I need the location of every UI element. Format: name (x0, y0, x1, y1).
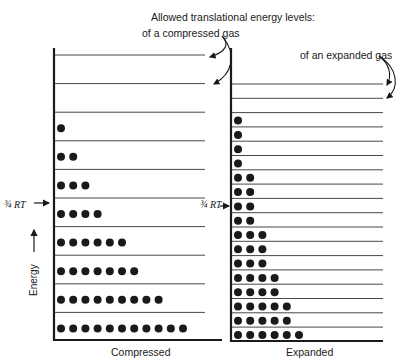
molecule-dot (94, 239, 102, 247)
curved-arrow-icon (210, 36, 226, 57)
molecule-dot (258, 274, 266, 282)
molecule-dot (69, 296, 77, 304)
molecule-dot (81, 181, 89, 189)
molecule-dot (246, 231, 254, 239)
molecule-dot (295, 331, 303, 339)
molecule-dot (271, 288, 279, 296)
molecule-dot (258, 260, 266, 268)
molecule-dot (106, 239, 114, 247)
molecule-dot (179, 324, 187, 332)
molecule-dot (246, 245, 254, 253)
molecule-dot (258, 231, 266, 239)
molecule-dot (94, 267, 102, 275)
molecule-dot (246, 331, 254, 339)
molecule-dot (246, 260, 254, 268)
molecule-dot (258, 245, 266, 253)
curved-arrow-icon (214, 36, 231, 84)
molecule-dot (69, 324, 77, 332)
molecule-dot (271, 331, 279, 339)
molecule-dot (246, 188, 254, 196)
molecule-dot (271, 303, 279, 311)
molecule-dot (246, 217, 254, 225)
molecule-dot (234, 131, 242, 139)
molecule-dot (57, 296, 65, 304)
molecule-dot (234, 117, 242, 125)
molecule-dot (118, 296, 126, 304)
molecule-dot (130, 267, 138, 275)
molecule-dot (246, 288, 254, 296)
molecule-dot (271, 317, 279, 325)
molecule-dot (57, 239, 65, 247)
molecule-dot (94, 296, 102, 304)
molecule-dot (234, 231, 242, 239)
curved-arrow-icon (379, 56, 395, 98)
molecule-dot (258, 317, 266, 325)
molecule-dot (258, 331, 266, 339)
molecule-dot (234, 160, 242, 168)
molecule-dot (81, 210, 89, 218)
molecule-dot (57, 181, 65, 189)
molecule-dot (142, 324, 150, 332)
molecule-dot (234, 217, 242, 225)
molecule-dot (118, 324, 126, 332)
molecule-dot (234, 331, 242, 339)
molecule-dot (69, 210, 77, 218)
molecule-dot (94, 324, 102, 332)
molecule-dot (234, 274, 242, 282)
molecule-dot (69, 153, 77, 161)
molecule-dot (69, 267, 77, 275)
molecule-dot (246, 202, 254, 210)
molecule-dot (258, 303, 266, 311)
molecule-dot (246, 317, 254, 325)
molecule-dot (234, 317, 242, 325)
molecule-dot (106, 267, 114, 275)
molecule-dot (106, 324, 114, 332)
molecule-dot (234, 303, 242, 311)
molecule-dot (234, 174, 242, 182)
molecule-dot (81, 324, 89, 332)
molecule-dot (246, 303, 254, 311)
molecule-dot (81, 239, 89, 247)
molecule-dot (155, 324, 163, 332)
molecule-dot (118, 239, 126, 247)
molecule-dot (246, 274, 254, 282)
molecule-dot (69, 239, 77, 247)
molecule-dot (246, 174, 254, 182)
molecule-dot (234, 245, 242, 253)
molecule-dot (106, 296, 114, 304)
molecule-dot (130, 296, 138, 304)
molecule-dot (283, 303, 291, 311)
molecule-dot (57, 124, 65, 132)
molecule-dot (57, 210, 65, 218)
molecule-dot (57, 267, 65, 275)
molecule-dot (69, 181, 77, 189)
molecule-dot (81, 296, 89, 304)
molecule-dot (118, 267, 126, 275)
molecule-dot (167, 324, 175, 332)
molecule-dot (234, 260, 242, 268)
molecule-dot (81, 267, 89, 275)
molecule-dot (234, 145, 242, 153)
molecule-dot (258, 288, 266, 296)
energy-level-diagram (0, 0, 404, 364)
molecule-dot (142, 296, 150, 304)
molecule-dot (234, 202, 242, 210)
molecule-dot (94, 210, 102, 218)
molecule-dot (271, 274, 279, 282)
molecule-dot (283, 331, 291, 339)
molecule-dot (234, 288, 242, 296)
molecule-dot (283, 317, 291, 325)
molecule-dot (234, 188, 242, 196)
molecule-dot (155, 296, 163, 304)
molecule-dot (57, 153, 65, 161)
molecule-dot (57, 324, 65, 332)
molecule-dot (130, 324, 138, 332)
